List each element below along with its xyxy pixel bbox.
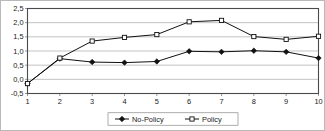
data-point-marker: [58, 56, 62, 60]
x-axis-tick-label: 2: [58, 97, 62, 106]
chart-legend: No-PolicyPolicy: [108, 113, 238, 126]
y-axis-tick-labels: 2,52,01,51,00,50,0-0,5: [11, 4, 24, 98]
chart-canvas: 2,52,01,51,00,50,0-0,5 12345678910 No-Po…: [1, 1, 325, 131]
data-point-marker: [252, 34, 256, 38]
y-axis-tick-label: 0,5: [13, 61, 23, 70]
legend-label: No-Policy: [132, 115, 164, 124]
data-point-marker: [187, 20, 191, 24]
data-point-marker: [154, 59, 159, 64]
series-line: [28, 51, 319, 84]
x-axis-tick-label: 9: [284, 97, 288, 106]
y-axis-tick-label: 2,5: [13, 4, 23, 13]
data-point-marker: [283, 49, 288, 54]
data-point-marker: [122, 60, 127, 65]
x-axis-tick-label: 3: [90, 97, 94, 106]
y-axis-tick-label: 1,5: [13, 32, 23, 41]
y-axis-tick-label: 2,0: [13, 18, 23, 27]
series-no-policy: [25, 48, 321, 86]
series-line: [28, 20, 319, 83]
data-point-marker: [186, 49, 191, 54]
x-axis-tick-label: 8: [252, 97, 256, 106]
legend-marker: [190, 117, 194, 121]
chart-container: 2,52,01,51,00,50,0-0,5 12345678910 No-Po…: [0, 0, 325, 131]
y-axis-tick-label: -0,5: [11, 89, 24, 98]
data-point-marker: [251, 48, 256, 53]
data-point-marker: [25, 81, 29, 85]
y-axis-tick-label: 1,0: [13, 47, 23, 56]
data-point-marker: [219, 18, 223, 22]
x-axis-tick-label: 6: [187, 97, 191, 106]
x-axis-tick-label: 4: [122, 97, 126, 106]
x-axis-tick-label: 10: [314, 97, 322, 106]
legend-label: Policy: [202, 115, 222, 124]
data-point-marker: [316, 34, 320, 38]
x-axis-tick-label: 7: [219, 97, 223, 106]
y-axis-tick-label: 0,0: [13, 75, 23, 84]
data-point-marker: [284, 37, 288, 41]
x-axis-tick-label: 5: [155, 97, 159, 106]
data-point-marker: [89, 59, 94, 64]
data-point-marker: [122, 35, 126, 39]
x-axis-tick-labels: 12345678910: [25, 97, 322, 106]
data-point-marker: [90, 39, 94, 43]
data-point-marker: [316, 55, 321, 60]
data-series-group: [25, 18, 321, 86]
x-axis-tick-label: 1: [25, 97, 29, 106]
data-point-marker: [155, 32, 159, 36]
data-point-marker: [219, 49, 224, 54]
